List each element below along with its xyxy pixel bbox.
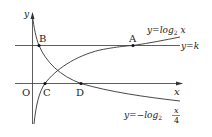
point-label-c: C bbox=[43, 87, 51, 98]
line-label-k: y=k bbox=[180, 41, 199, 51]
x-axis-arrow-icon bbox=[176, 82, 183, 86]
point-a bbox=[131, 44, 134, 47]
point-b bbox=[37, 44, 40, 47]
point-label-b: B bbox=[39, 33, 46, 44]
point-label-a: A bbox=[128, 33, 137, 44]
curve-label-neg-log2: y=−log2 bbox=[123, 110, 162, 121]
y-axis-label: y bbox=[23, 9, 30, 19]
point-c bbox=[43, 82, 46, 85]
x-axis-label: x bbox=[174, 86, 180, 97]
frac-num: x bbox=[174, 106, 179, 115]
frac-den: 4 bbox=[174, 116, 179, 125]
graph: A B C D O x y y=k y=log2 x y=−log2 x 4 bbox=[0, 0, 212, 137]
point-d bbox=[79, 82, 82, 85]
origin-label: O bbox=[22, 87, 30, 98]
point-label-d: D bbox=[76, 87, 84, 98]
curve-label-log2: y=log2 x bbox=[146, 25, 185, 36]
